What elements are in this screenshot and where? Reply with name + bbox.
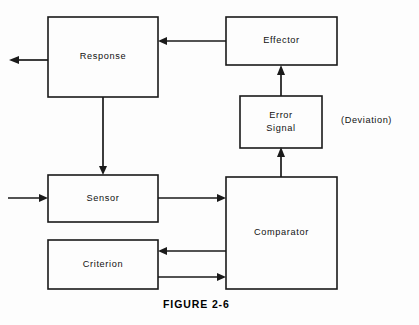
block-diagram-canvas: [0, 0, 419, 325]
connector-sensor-to-comparator: [158, 194, 226, 202]
connector-response-output: [9, 56, 48, 64]
box-response: [48, 17, 158, 97]
arrowhead-left: [158, 37, 167, 45]
box-criterion: [48, 240, 158, 289]
arrowhead-right: [217, 273, 226, 281]
connector-response-to-sensor: [99, 97, 107, 175]
arrowhead-left: [9, 56, 19, 64]
box-effector: [226, 17, 337, 65]
box-comparator: [226, 177, 337, 289]
connector-comparator-to-error-signal: [277, 147, 285, 177]
connector-effector-to-response: [158, 37, 226, 45]
connector-input-to-sensor: [8, 194, 48, 202]
box-sensor: [48, 175, 158, 222]
arrowhead-up: [277, 65, 285, 75]
connector-criterion-to-comparator: [158, 273, 226, 281]
box-error-signal: [240, 96, 322, 148]
arrowhead-right: [217, 194, 226, 202]
arrowhead-right: [39, 194, 48, 202]
connector-error-signal-to-effector: [277, 65, 285, 96]
figure-caption: FIGURE 2-6: [163, 298, 230, 310]
figure-page: Response Effector Error Signal Sensor Co…: [0, 0, 419, 325]
arrowhead-down: [99, 166, 107, 175]
annotation-deviation: (Deviation): [341, 115, 392, 125]
arrowhead-left: [158, 247, 167, 255]
connector-comparator-to-criterion: [158, 247, 226, 255]
